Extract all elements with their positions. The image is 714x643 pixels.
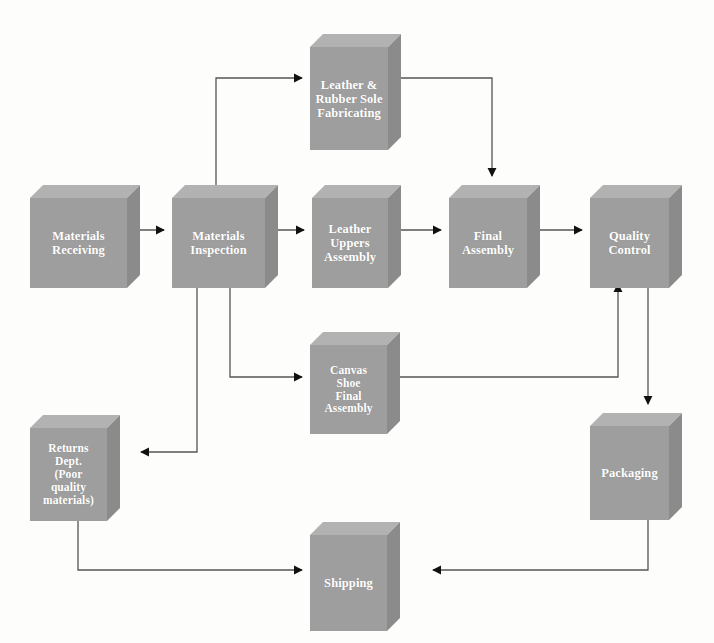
node-label-materials-receiving: Materials Receiving: [30, 198, 127, 288]
node-top-face: [312, 185, 401, 198]
node-top-face: [310, 522, 400, 535]
node-side-face: [388, 185, 401, 288]
node-label-shipping: Shipping: [310, 535, 387, 631]
node-top-face: [310, 34, 401, 47]
edge-inspection-to-returns: [141, 276, 197, 452]
node-label-returns-dept: Returns Dept. (Poor quality materials): [30, 428, 107, 521]
node-returns-dept[interactable]: Returns Dept. (Poor quality materials): [30, 415, 120, 521]
node-top-face: [172, 185, 278, 198]
node-side-face: [107, 415, 120, 521]
node-side-face: [387, 332, 400, 434]
node-quality-control[interactable]: Quality Control: [590, 185, 682, 288]
node-side-face: [265, 185, 278, 288]
edge-inspection-to-canvas: [230, 276, 302, 377]
node-leather-uppers[interactable]: Leather Uppers Assembly: [312, 185, 401, 288]
node-top-face: [449, 185, 540, 198]
node-side-face: [669, 413, 682, 520]
node-label-final-assembly: Final Assembly: [449, 198, 527, 288]
node-label-leather-uppers: Leather Uppers Assembly: [312, 198, 388, 288]
node-shipping[interactable]: Shipping: [310, 522, 400, 631]
node-label-leather-rubber-sole: Leather & Rubber Sole Fabricating: [310, 47, 388, 150]
node-label-canvas-shoe: Canvas Shoe Final Assembly: [310, 345, 387, 434]
node-side-face: [387, 522, 400, 631]
node-leather-rubber-sole[interactable]: Leather & Rubber Sole Fabricating: [310, 34, 401, 150]
node-packaging[interactable]: Packaging: [590, 413, 682, 520]
node-label-quality-control: Quality Control: [590, 198, 669, 288]
node-final-assembly[interactable]: Final Assembly: [449, 185, 540, 288]
edge-sole-to-final-assembly: [401, 78, 492, 176]
edge-canvas-to-quality: [400, 284, 618, 377]
node-top-face: [30, 415, 120, 428]
node-side-face: [527, 185, 540, 288]
edges-group: [78, 78, 648, 570]
node-top-face: [590, 185, 682, 198]
node-canvas-shoe[interactable]: Canvas Shoe Final Assembly: [310, 332, 400, 434]
edge-inspection-to-sole: [216, 78, 302, 185]
node-side-face: [127, 185, 140, 288]
node-materials-inspection[interactable]: Materials Inspection: [172, 185, 278, 288]
node-side-face: [669, 185, 682, 288]
node-top-face: [30, 185, 140, 198]
node-materials-receiving[interactable]: Materials Receiving: [30, 185, 140, 288]
node-top-face: [310, 332, 400, 345]
flowchart-canvas: Materials ReceivingMaterials InspectionL…: [0, 0, 714, 643]
node-top-face: [590, 413, 682, 426]
node-label-packaging: Packaging: [590, 426, 669, 520]
node-label-materials-inspection: Materials Inspection: [172, 198, 265, 288]
node-side-face: [388, 34, 401, 150]
